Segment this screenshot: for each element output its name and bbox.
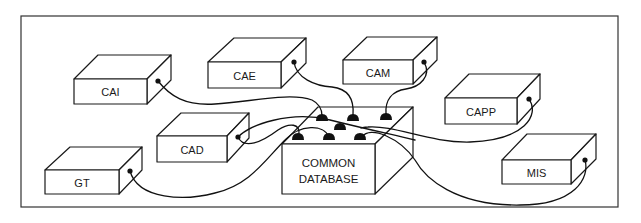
node-gt-label: GT (74, 177, 90, 189)
hub-label-line-1: COMMON (302, 157, 356, 169)
node-cai-label: CAI (101, 86, 119, 98)
node-cam-label: CAM (366, 67, 390, 79)
node-cad-label: CAD (180, 144, 203, 156)
node-cae-label: CAE (233, 70, 256, 82)
diagram-canvas: COMMON DATABASE CAI CAE CAM CAPP (0, 0, 641, 223)
hub-label-line-2: DATABASE (299, 173, 359, 185)
node-capp-label: CAPP (466, 106, 496, 118)
node-mis-label: MIS (527, 167, 547, 179)
diagram-svg: COMMON DATABASE CAI CAE CAM CAPP (0, 0, 641, 223)
